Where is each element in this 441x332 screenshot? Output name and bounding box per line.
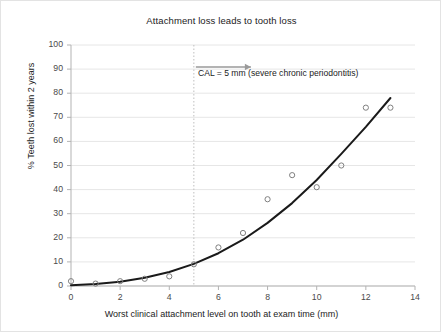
data-point-marker [167, 274, 172, 279]
data-point-markers [68, 105, 393, 286]
chart-figure: Attachment loss leads to tooth loss % Te… [0, 0, 441, 332]
data-point-marker [388, 105, 393, 110]
data-point-marker [265, 197, 270, 202]
trend-curve [71, 98, 390, 285]
data-point-marker [240, 230, 245, 235]
data-point-marker [290, 173, 295, 178]
data-point-marker [314, 185, 319, 190]
plot-area [1, 1, 441, 332]
axis-lines [67, 45, 415, 290]
data-point-marker [216, 245, 221, 250]
gridlines [71, 45, 415, 286]
cal-annotation-label: CAL = 5 mm (severe chronic periodontitis… [198, 68, 358, 78]
data-point-marker [363, 105, 368, 110]
